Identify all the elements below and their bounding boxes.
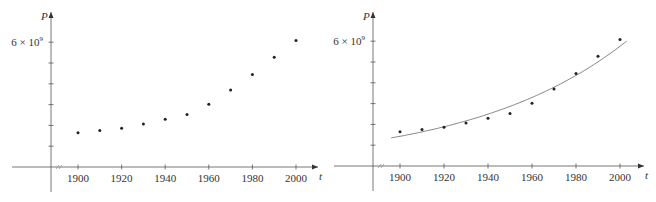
data-point [443, 126, 446, 129]
data-point [597, 55, 600, 58]
data-point [509, 112, 512, 115]
y-axis-arrow-icon [49, 12, 54, 18]
x-tick-label: 1900 [389, 171, 412, 183]
data-point [399, 130, 402, 133]
data-point [186, 113, 189, 116]
chart-panel-1: 6 × 109Pt190019201940196019802000 [11, 10, 323, 192]
y-axis-label: P [40, 10, 48, 22]
x-tick-label: 1980 [241, 172, 264, 184]
data-point [207, 103, 210, 106]
data-point [229, 89, 232, 92]
data-point [531, 102, 534, 105]
x-axis-label: t [645, 169, 649, 181]
data-point [553, 88, 556, 91]
exponential-model-curve [391, 41, 626, 138]
chart-panel-2: 6 × 109Pt190019201940196019802000 [333, 10, 649, 191]
y-tick-label: 6 × 109 [333, 34, 365, 47]
x-tick-label: 1900 [67, 172, 90, 184]
data-point [273, 56, 276, 59]
x-axis-arrow-icon [638, 164, 644, 169]
x-axis-arrow-icon [312, 165, 318, 170]
data-point [164, 118, 167, 121]
y-tick-label: 6 × 109 [11, 35, 43, 48]
x-tick-label: 1920 [433, 171, 456, 183]
x-tick-label: 1960 [198, 172, 221, 184]
data-point [575, 72, 578, 75]
data-point [619, 38, 622, 41]
x-tick-label: 1960 [521, 171, 544, 183]
data-point [120, 127, 123, 130]
x-tick-label: 1940 [477, 171, 500, 183]
x-tick-label: 1980 [565, 171, 588, 183]
x-tick-label: 2000 [609, 171, 632, 183]
x-tick-label: 2000 [285, 172, 308, 184]
data-point [295, 39, 298, 42]
x-axis-label: t [319, 170, 323, 182]
data-point [487, 117, 490, 120]
x-tick-label: 1940 [154, 172, 177, 184]
data-point [77, 131, 80, 134]
y-axis-arrow-icon [371, 12, 376, 18]
population-charts: 6 × 109Pt1900192019401960198020006 × 109… [0, 0, 656, 202]
y-axis-label: P [362, 10, 370, 22]
data-point [98, 129, 101, 132]
data-point [421, 128, 424, 131]
data-point [251, 73, 254, 76]
x-tick-label: 1920 [111, 172, 134, 184]
data-point [465, 121, 468, 124]
data-point [142, 122, 145, 125]
